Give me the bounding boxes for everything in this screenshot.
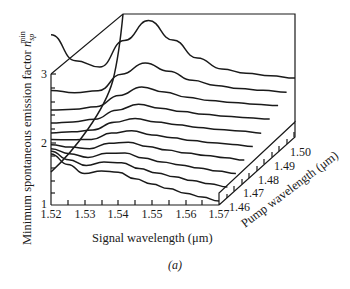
y-axis-title-text: Minimum spontaneous emission factor <box>20 47 34 245</box>
x-tick-1.52: 1.52 <box>41 207 62 221</box>
y-axis-title: Minimum spontaneous emission factor nspm… <box>18 31 36 245</box>
y-axis-subscript: sp <box>27 34 36 41</box>
chart-frame <box>51 14 295 122</box>
svg-text:Minimum spontaneous emission f: Minimum spontaneous emission factor nspm… <box>18 31 36 245</box>
x-tick-1.54: 1.54 <box>108 207 129 221</box>
z-tick-1.47: 1.47 <box>243 186 264 200</box>
z-tick-1.48: 1.48 <box>258 173 279 187</box>
chart-canvas: 3 2 1 1.52 1.53 1.54 1.55 1.56 1.57 1.46… <box>0 0 350 289</box>
series-curve <box>51 63 287 93</box>
x-tick-1.56: 1.56 <box>176 207 197 221</box>
z-tick-1.49: 1.49 <box>274 159 295 173</box>
x-axis <box>51 200 219 205</box>
series-curve <box>51 87 278 110</box>
z-tick-1.50: 1.50 <box>290 145 311 159</box>
y-tick-2: 2 <box>41 136 47 150</box>
series-curve <box>51 21 295 79</box>
figure-caption: (a) <box>168 258 182 272</box>
x-axis-title: Signal wavelength (μm) <box>92 231 213 245</box>
y-tick-3: 3 <box>41 67 47 81</box>
y-tick-labels: 3 2 1 <box>41 67 47 211</box>
series-curve <box>51 104 270 123</box>
series-curve <box>51 142 244 160</box>
x-tick-1.57: 1.57 <box>209 207 230 221</box>
x-tick-labels: 1.52 1.53 1.54 1.55 1.56 1.57 <box>41 207 230 221</box>
series-curve <box>51 151 227 187</box>
x-tick-1.53: 1.53 <box>75 207 96 221</box>
y-axis-superscript: min <box>18 31 27 43</box>
x-tick-1.55: 1.55 <box>142 207 163 221</box>
